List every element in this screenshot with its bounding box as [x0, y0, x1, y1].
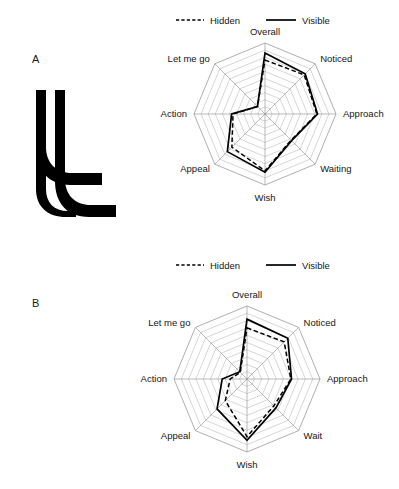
radar-series-hidden	[232, 60, 317, 171]
panel-b: B Hidden Visible OverallNoticedApproachW…	[0, 245, 399, 489]
panel-b-letter: B	[32, 297, 39, 309]
radar-axis-label-let-me-go: Let me go	[168, 53, 210, 64]
radar-axis-label-approach: Approach	[327, 373, 368, 384]
radar-axis-label-waiting: Waiting	[320, 163, 351, 174]
radar-axis-label-noticed: Noticed	[320, 53, 352, 64]
radar-axis-label-noticed: Noticed	[304, 317, 336, 328]
radar-series-hidden	[225, 328, 290, 437]
radar-series-visible	[227, 53, 317, 172]
radar-axis-label-appeal: Appeal	[161, 430, 191, 441]
legend-label-visible-b: Visible	[302, 260, 330, 271]
radar-axis-label-appeal: Appeal	[180, 163, 210, 174]
panel-b-chart: Hidden Visible OverallNoticedApproachWai…	[110, 247, 399, 487]
panel-a: A Hidden Visible OverallNoticedApproachW…	[0, 0, 399, 244]
panel-a-letter: A	[32, 53, 39, 65]
legend-b: Hidden Visible	[176, 260, 330, 271]
radar-axis-label-let-me-go: Let me go	[148, 317, 190, 328]
panel-a-stimulus	[6, 85, 116, 215]
radar-axis-label-action: Action	[161, 108, 187, 119]
legend-label-hidden-a: Hidden	[210, 15, 240, 26]
radar-axis-label-overall: Overall	[232, 289, 262, 300]
radar-axis-label-overall: Overall	[250, 26, 280, 37]
radar-chart-a: Hidden Visible OverallNoticedApproachWai…	[120, 2, 399, 242]
legend-a: Hidden Visible	[176, 15, 330, 26]
radar-axis-label-action: Action	[141, 373, 167, 384]
radar-a-series	[227, 53, 317, 172]
legend-label-hidden-b: Hidden	[210, 260, 240, 271]
radar-axis-label-approach: Approach	[343, 108, 384, 119]
panel-a-chart: Hidden Visible OverallNoticedApproachWai…	[120, 2, 399, 242]
double-hook-outline-stimulus-graphic	[6, 85, 116, 215]
legend-label-visible-a: Visible	[302, 15, 330, 26]
radar-axis-label-wish: Wish	[254, 192, 275, 203]
radar-axis-label-wait: Wait	[304, 430, 323, 441]
radar-chart-b: Hidden Visible OverallNoticedApproachWai…	[110, 247, 399, 487]
radar-axis-label-wish: Wish	[236, 459, 257, 470]
